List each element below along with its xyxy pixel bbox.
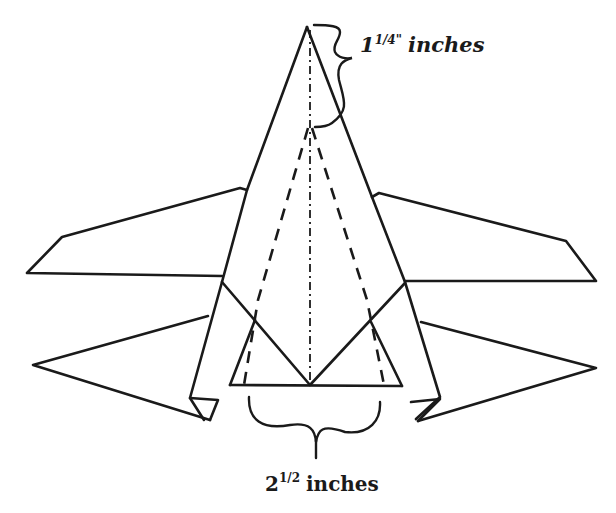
- lower-wings: [33, 316, 596, 421]
- upper-right-wing: [372, 193, 596, 281]
- base-width-label: 21/2inches: [265, 471, 379, 496]
- right-flap-edge: [371, 322, 402, 386]
- left-flap-bottom: [190, 398, 218, 420]
- inner-flaps: [190, 282, 440, 421]
- upper-left-wing: [27, 188, 247, 276]
- bottom-brace-icon: [249, 397, 380, 442]
- body-right-edge: [307, 27, 440, 419]
- top-brace-icon: [314, 25, 352, 127]
- lower-right-wing: [418, 322, 596, 421]
- left-flap-edge: [230, 320, 255, 385]
- paper-airplane-diagram: 11/4"inches 21/2inches: [0, 0, 616, 513]
- base-width-annotation: 21/2inches: [249, 397, 380, 496]
- lower-left-wing: [33, 316, 210, 420]
- right-dashed-fold: [312, 128, 384, 385]
- upper-wings: [27, 188, 596, 281]
- base-line: [230, 385, 402, 386]
- airplane-body: [190, 27, 440, 420]
- nose-length-label: 11/4"inches: [360, 32, 485, 57]
